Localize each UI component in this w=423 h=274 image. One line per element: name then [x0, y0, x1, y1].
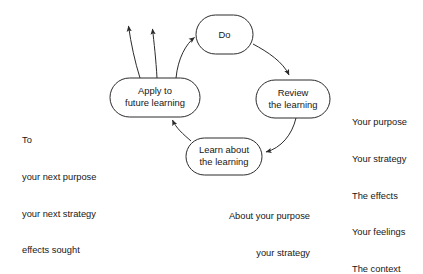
review-details-line: Your strategy — [352, 153, 407, 165]
arrow-review-to-learn — [266, 118, 296, 152]
review-details-line: The effects — [352, 190, 407, 202]
node-do[interactable]: Do — [196, 15, 253, 54]
apply-details-line: effects sought — [22, 244, 96, 256]
apply-details-text: To your next purpose your next strategy … — [22, 110, 96, 274]
arrow-do-to-review — [253, 44, 289, 75]
node-apply[interactable]: Apply to future learning — [110, 78, 200, 117]
node-learn-label-line2: the learning — [200, 156, 249, 167]
node-apply-label-line1: Apply to — [138, 85, 172, 96]
node-review[interactable]: Review the learning — [256, 80, 330, 118]
arrow-apply-to-do — [176, 38, 195, 79]
apply-details-line: To — [22, 134, 96, 146]
review-details-line: Your feelings — [352, 226, 407, 238]
arrow-apply-outgoing-right — [153, 29, 158, 78]
arrow-learn-to-apply — [173, 120, 192, 141]
learning-cycle-diagram: Do Review the learning Learn about the l… — [0, 0, 423, 274]
node-review-label-line2: the learning — [269, 99, 318, 110]
node-learn[interactable]: Learn about the learning — [186, 138, 262, 175]
review-details-line: The context — [352, 263, 407, 274]
learn-details-line: About your purpose — [186, 210, 310, 222]
learn-details-text: About your purpose your strategy the eff… — [186, 186, 310, 274]
node-learn-label-line1: Learn about — [199, 144, 249, 155]
node-review-label-line1: Review — [278, 87, 309, 98]
apply-details-line: your next strategy — [22, 208, 96, 220]
learn-details-line: your strategy — [186, 247, 310, 259]
review-details-line: Your purpose — [352, 116, 407, 128]
review-details-text: Your purpose Your strategy The effects Y… — [352, 92, 407, 274]
node-apply-label-line2: future learning — [125, 97, 185, 108]
arrow-apply-outgoing-left — [129, 26, 141, 78]
apply-details-line: your next purpose — [22, 171, 96, 183]
node-do-label: Do — [219, 29, 231, 40]
